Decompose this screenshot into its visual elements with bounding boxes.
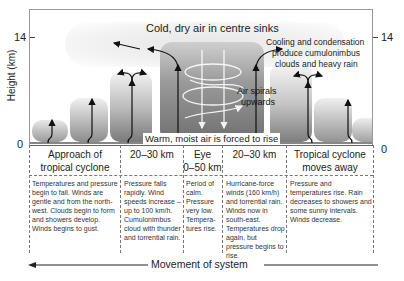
movement-label: Movement of system: [151, 258, 248, 270]
y-axis-label: Height (km): [6, 50, 17, 102]
annotation-cooling-1: Cooling and condensation: [266, 37, 364, 48]
column-header-eyewall-front: 20–30 km: [121, 148, 183, 161]
y-tick-0-left: 0: [17, 138, 23, 150]
table-top-line: [29, 145, 373, 146]
column-body-eyewall-rear: Hurricane-force winds (160 km/h) and tor…: [226, 179, 285, 260]
header-line: Tropical cyclone: [287, 148, 373, 161]
y-tick-0-right: 0: [381, 143, 387, 155]
annotation-cooling-3: clouds and heavy rain: [275, 59, 358, 70]
annotation-spiral-1: Air spirals: [237, 86, 277, 97]
header-line: 0–50 km: [183, 161, 222, 174]
cloud-panel: Cold, dry air in centre sinks Cooling an…: [29, 9, 373, 145]
col-divider-1: [120, 145, 121, 253]
header-line: 20–30 km: [223, 148, 286, 161]
col-divider-5: [373, 145, 374, 253]
column-body-eyewall-front: Pressure falls rapidly. Wind speeds incr…: [124, 179, 182, 242]
header-line: Approach of: [30, 148, 120, 161]
col-divider-3: [222, 145, 223, 253]
header-line: moves away: [287, 161, 373, 174]
header-line: 20–30 km: [121, 148, 183, 161]
annotation-spiral-2: upwards: [241, 97, 275, 108]
y-tick-14-left: 14: [14, 31, 26, 43]
annotation-cooling-2: produce cumulonimbus: [272, 48, 360, 59]
table-header-divider: [29, 175, 373, 176]
header-line: tropical cyclone: [30, 161, 120, 174]
annotation-warm-moist-air: Warm, moist air is forced to rise: [143, 133, 280, 144]
annotation-cold-dry-air: Cold, dry air in centre sinks: [146, 23, 279, 34]
column-header-eyewall-rear: 20–30 km: [223, 148, 286, 161]
column-body-eye: Period of calm. Pressure very low. Tempe…: [186, 179, 222, 233]
y-tick-14-right: 14: [381, 31, 393, 43]
column-header-eye: Eye 0–50 km: [183, 148, 222, 174]
column-header-approach: Approach of tropical cyclone: [30, 148, 120, 174]
column-body-approach: Temperatures and pressure begin to fall.…: [32, 179, 120, 233]
column-header-moves-away: Tropical cyclone moves away: [287, 148, 373, 174]
header-line: Eye: [183, 148, 222, 161]
column-body-moves-away: Pressure and temperatures rise. Rain dec…: [290, 179, 372, 224]
